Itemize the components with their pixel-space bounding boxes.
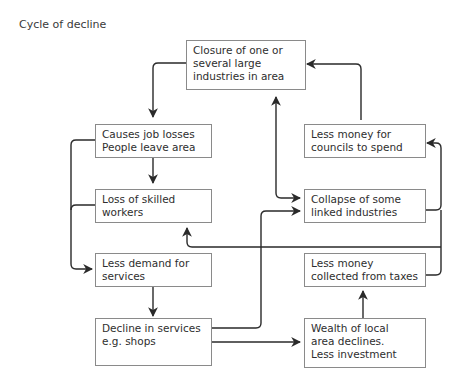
node-taxes: Less money collected from taxes xyxy=(304,253,426,287)
node-job-losses: Causes job losses People leave area xyxy=(95,124,212,158)
node-closure: Closure of one or several large industri… xyxy=(186,40,306,90)
node-less-demand: Less demand for services xyxy=(95,253,212,287)
node-decline-services: Decline in services e.g. shops xyxy=(95,318,212,366)
node-councils: Less money for councils to spend xyxy=(304,124,426,158)
node-collapse: Collapse of some linked industries xyxy=(304,189,426,223)
node-wealth: Wealth of local area declines. Less inve… xyxy=(304,318,426,368)
node-skilled-workers: Loss of skilled workers xyxy=(95,189,212,223)
